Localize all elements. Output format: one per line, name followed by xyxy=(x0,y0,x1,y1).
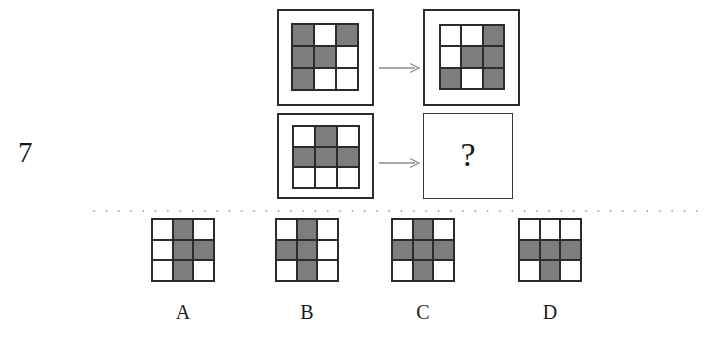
grid-cell-r2-c2 xyxy=(173,240,194,261)
puzzle-root: 7 ? xyxy=(0,0,708,350)
grid-cell-r3-c3 xyxy=(560,260,581,281)
grid-cell-r3-c2 xyxy=(461,68,482,89)
grid-cell-r1-c1 xyxy=(519,219,540,240)
grid-cell-r3-c2 xyxy=(314,68,336,90)
grid-cell-r1-c3 xyxy=(433,219,454,240)
grid-cell-r1-c3 xyxy=(336,24,358,46)
grid-cell-r1-c1 xyxy=(392,219,413,240)
grid-cell-r3-c1 xyxy=(519,260,540,281)
grid-cell-r2-c3 xyxy=(317,240,338,261)
grid-cell-r2-c1 xyxy=(152,240,173,261)
grid-cell-r1-c3 xyxy=(483,25,504,46)
stem-row-2: ? xyxy=(277,113,520,199)
grid-cell-r3-c3 xyxy=(433,260,454,281)
grid-cell-r2-c2 xyxy=(413,240,434,261)
grid-cell-r1-c1 xyxy=(440,25,461,46)
question-mark: ? xyxy=(424,114,512,198)
grid-cell-r1-c3 xyxy=(560,219,581,240)
grid-cell-r2-c3 xyxy=(337,147,359,168)
stem-row-1-right-panel xyxy=(423,9,520,106)
grid-cell-r1-c1 xyxy=(276,219,297,240)
option-b-grid[interactable] xyxy=(275,218,339,282)
grid-cell-r2-c3 xyxy=(193,240,214,261)
grid-cell-r2-c1 xyxy=(293,147,315,168)
grid-cell-r1-c2 xyxy=(297,219,318,240)
stem-row-1 xyxy=(277,9,520,106)
option-d-grid[interactable] xyxy=(518,218,582,282)
grid-cell-r3-c2 xyxy=(540,260,561,281)
grid-cell-r2-c2 xyxy=(461,46,482,67)
option-c-grid[interactable] xyxy=(391,218,455,282)
grid-cell-r3-c2 xyxy=(173,260,194,281)
grid-cell-r3-c3 xyxy=(193,260,214,281)
grid-cell-r1-c2 xyxy=(461,25,482,46)
grid-cell-r1-c1 xyxy=(152,219,173,240)
answer-option-a[interactable]: A xyxy=(133,218,233,322)
grid-cell-r2-c2 xyxy=(314,46,336,68)
grid-cell-r2-c1 xyxy=(276,240,297,261)
stem-row-2-answer-panel: ? xyxy=(423,113,513,199)
grid-cell-r1-c2 xyxy=(413,219,434,240)
arrow-right-icon xyxy=(379,156,421,170)
stem-row-2-left-grid xyxy=(292,125,360,189)
grid-cell-r1-c3 xyxy=(337,126,359,147)
grid-cell-r3-c1 xyxy=(440,68,461,89)
grid-cell-r2-c3 xyxy=(336,46,358,68)
stem-row-1-right-grid xyxy=(439,24,505,90)
grid-cell-r3-c3 xyxy=(337,167,359,188)
stem-row-1-left-grid xyxy=(291,23,359,91)
grid-cell-r1-c2 xyxy=(315,126,337,147)
grid-cell-r1-c1 xyxy=(292,24,314,46)
grid-cell-r2-c1 xyxy=(392,240,413,261)
grid-cell-r2-c1 xyxy=(292,46,314,68)
option-b-label: B xyxy=(257,302,357,322)
grid-cell-r1-c2 xyxy=(173,219,194,240)
answer-option-d[interactable]: D xyxy=(500,218,600,322)
grid-cell-r2-c3 xyxy=(433,240,454,261)
stem-row-1-left-panel xyxy=(277,9,374,106)
grid-cell-r3-c3 xyxy=(317,260,338,281)
grid-cell-r3-c2 xyxy=(315,167,337,188)
dotted-separator xyxy=(88,210,703,212)
grid-cell-r2-c3 xyxy=(483,46,504,67)
grid-cell-r2-c2 xyxy=(315,147,337,168)
stem-row-2-left-panel xyxy=(277,113,374,199)
grid-cell-r1-c3 xyxy=(317,219,338,240)
grid-cell-r3-c1 xyxy=(152,260,173,281)
option-d-label: D xyxy=(500,302,600,322)
grid-cell-r3-c3 xyxy=(483,68,504,89)
option-a-label: A xyxy=(133,302,233,322)
option-c-label: C xyxy=(373,302,473,322)
grid-cell-r1-c2 xyxy=(314,24,336,46)
grid-cell-r1-c2 xyxy=(540,219,561,240)
answer-option-b[interactable]: B xyxy=(257,218,357,322)
grid-cell-r1-c3 xyxy=(193,219,214,240)
grid-cell-r2-c2 xyxy=(297,240,318,261)
grid-cell-r2-c1 xyxy=(519,240,540,261)
arrow-right-icon xyxy=(379,61,421,75)
grid-cell-r3-c2 xyxy=(297,260,318,281)
grid-cell-r3-c1 xyxy=(292,68,314,90)
grid-cell-r3-c3 xyxy=(336,68,358,90)
grid-cell-r2-c3 xyxy=(560,240,581,261)
grid-cell-r1-c1 xyxy=(293,126,315,147)
grid-cell-r3-c2 xyxy=(413,260,434,281)
grid-cell-r2-c1 xyxy=(440,46,461,67)
answer-option-c[interactable]: C xyxy=(373,218,473,322)
grid-cell-r2-c2 xyxy=(540,240,561,261)
grid-cell-r3-c1 xyxy=(392,260,413,281)
option-a-grid[interactable] xyxy=(151,218,215,282)
grid-cell-r3-c1 xyxy=(293,167,315,188)
answer-options: A B C D xyxy=(0,218,708,328)
question-number: 7 xyxy=(18,138,33,167)
grid-cell-r3-c1 xyxy=(276,260,297,281)
